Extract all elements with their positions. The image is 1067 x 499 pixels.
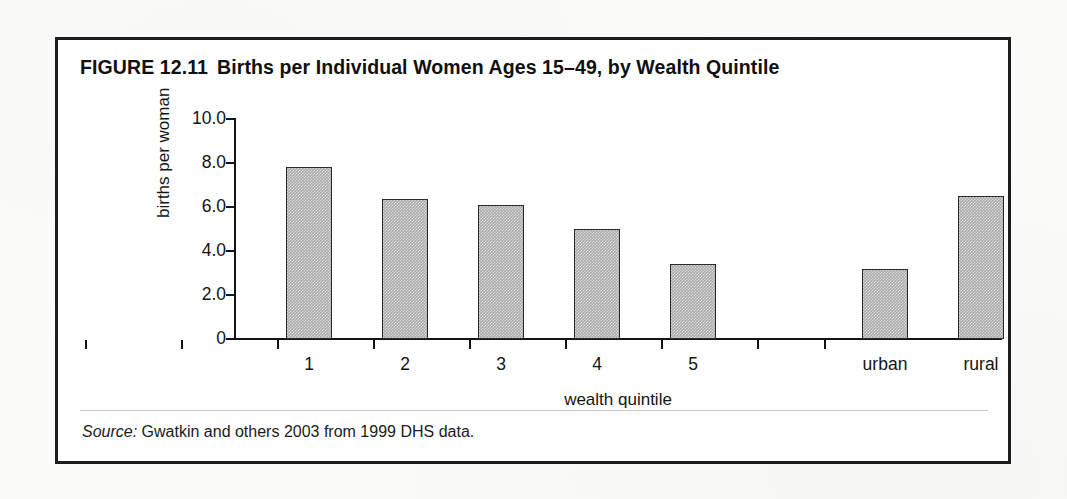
y-tick-label-0: 0 <box>216 328 226 349</box>
y-tick-label-10: 10.0 <box>192 108 226 129</box>
y-axis-tick-labels: 0 2.0 4.0 6.0 8.0 10.0 <box>170 98 226 338</box>
y-tick-label-4: 4.0 <box>202 240 226 261</box>
source-text: Gwatkin and others 2003 from 1999 DHS da… <box>137 423 474 440</box>
x-axis-tick-1 <box>181 340 183 349</box>
x-axis-tick-0 <box>85 340 87 349</box>
y-tick-label-2: 2.0 <box>202 284 226 305</box>
bar-urban[interactable] <box>862 269 908 339</box>
x-axis-tick-7 <box>757 340 759 349</box>
figure-title: FIGURE 12.11Births per Individual Women … <box>80 56 779 79</box>
y-tick-label-6: 6.0 <box>202 196 226 217</box>
x-axis-tick-6 <box>661 340 663 349</box>
x-tick-label-quintile-3: 3 <box>496 354 506 375</box>
bar-quintile-5[interactable] <box>670 264 716 339</box>
y-tick-label-8: 8.0 <box>202 152 226 173</box>
x-tick-label-quintile-4: 4 <box>592 354 602 375</box>
bar-quintile-1[interactable] <box>286 167 332 339</box>
x-tick-label-quintile-2: 2 <box>400 354 410 375</box>
x-axis-tick-2 <box>277 340 279 349</box>
x-tick-label-rural: rural <box>963 354 998 375</box>
bar-quintile-3[interactable] <box>478 205 524 339</box>
figure-frame: FIGURE 12.11Births per Individual Women … <box>55 37 1011 464</box>
x-axis-tick-8 <box>824 340 826 349</box>
bar-chart: births per woman 0 2.0 4.0 6.0 8.0 10.0 <box>58 98 1008 398</box>
x-axis-tick-4 <box>469 340 471 349</box>
source-divider <box>80 410 988 411</box>
figure-number: FIGURE 12.11 <box>80 56 208 78</box>
figure-title-text: Births per Individual Women Ages 15–49, … <box>217 56 779 78</box>
bar-quintile-4[interactable] <box>574 229 620 339</box>
bar-rural[interactable] <box>958 196 1004 339</box>
x-axis-tick-5 <box>565 340 567 349</box>
x-tick-label-urban: urban <box>863 354 908 375</box>
x-axis-tick-labels: 1 2 3 4 5 urban rural <box>234 354 1002 382</box>
source-note: Source: Gwatkin and others 2003 from 199… <box>82 423 474 441</box>
x-axis-tick-3 <box>373 340 375 349</box>
x-tick-label-quintile-1: 1 <box>304 354 314 375</box>
bar-series <box>234 118 1002 339</box>
x-axis-label: wealth quintile <box>234 390 1002 410</box>
x-tick-label-quintile-5: 5 <box>688 354 698 375</box>
source-label: Source: <box>82 423 137 440</box>
bar-quintile-2[interactable] <box>382 199 428 339</box>
